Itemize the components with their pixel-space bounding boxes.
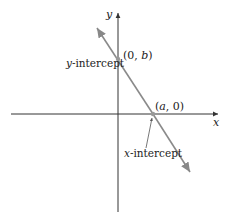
line-lower [153,114,190,172]
x-axis-label: x [213,116,220,129]
line-upper [97,28,153,114]
y-axis-label: y [105,8,113,21]
y-intercept-coords: (0, b) [123,49,153,62]
y-intercept-annotation: y-intercept [65,57,125,69]
x-intercept-coords: (a, 0) [155,100,184,113]
x-intercept-annotation: x-intercept [124,147,183,159]
x-intercept-pointer [146,118,152,148]
intercepts-diagram: y x (0, b) (a, 0) y-intercept x-intercep… [0,0,232,221]
